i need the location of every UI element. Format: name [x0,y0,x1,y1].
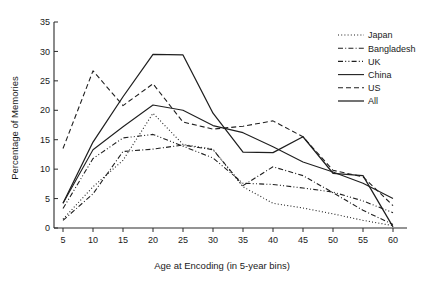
axes-group [54,22,407,232]
x-tick-label: 35 [238,235,248,245]
series-group [63,54,393,226]
series-line-bangladesh [63,145,393,224]
chart-figure: 0510152025303551015202530354045505560 Ja… [0,0,447,281]
x-tick-label: 10 [88,235,98,245]
x-tick-label: 60 [388,235,398,245]
y-tick-label: 30 [40,47,50,57]
tick-labels-group: 0510152025303551015202530354045505560 [40,17,398,245]
legend-label-japan: Japan [368,30,393,40]
x-tick-label: 30 [208,235,218,245]
legend-label-all: All [368,96,378,106]
legend-label-uk: UK [368,57,381,67]
series-line-all [63,54,393,226]
series-line-china [63,105,393,203]
y-axis-title: Percentage of Memories [9,76,20,180]
y-tick-label: 5 [45,194,50,204]
y-tick-label: 0 [45,223,50,233]
y-tick-label: 10 [40,164,50,174]
legend-group: JapanBangladeshUKChinaUSAll [338,30,416,106]
line-chart: 0510152025303551015202530354045505560 Ja… [0,0,447,281]
y-tick-label: 20 [40,105,50,115]
x-tick-label: 55 [358,235,368,245]
x-tick-label: 45 [298,235,308,245]
x-tick-label: 5 [60,235,65,245]
x-tick-label: 40 [268,235,278,245]
x-tick-label: 15 [118,235,128,245]
legend-label-china: China [368,70,392,80]
x-axis-title: Age at Encoding (in 5-year bins) [154,260,290,271]
y-tick-label: 35 [40,17,50,27]
y-tick-label: 25 [40,76,50,86]
series-line-us [63,71,393,206]
x-tick-label: 20 [148,235,158,245]
legend-label-us: US [368,83,381,93]
series-line-japan [63,113,393,225]
x-tick-label: 50 [328,235,338,245]
legend-label-bangladesh: Bangladesh [368,44,416,54]
y-tick-label: 15 [40,135,50,145]
x-tick-label: 25 [178,235,188,245]
